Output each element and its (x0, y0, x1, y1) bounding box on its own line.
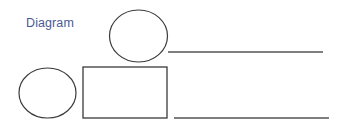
center-rectangle (83, 67, 167, 118)
left-ellipse (19, 68, 76, 118)
top-ellipse (110, 10, 168, 62)
diagram-canvas (0, 0, 344, 131)
